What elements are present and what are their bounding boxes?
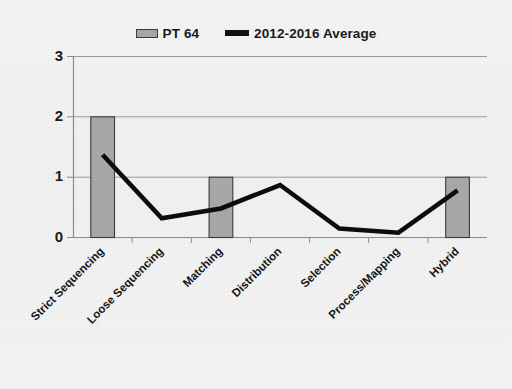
gridlines xyxy=(73,57,487,238)
x-label-hybrid: Hybrid xyxy=(427,245,461,279)
x-axis-ticks xyxy=(132,238,428,244)
x-label-matching: Matching xyxy=(180,245,224,289)
y-axis-ticks xyxy=(67,57,73,238)
y-axis-labels: 3 2 1 0 xyxy=(55,47,63,245)
y-tick-label-2: 2 xyxy=(55,107,63,124)
line-series-2012-2016-average xyxy=(103,155,458,233)
y-tick-label-1: 1 xyxy=(55,167,63,184)
chart-plot-area: 3 2 1 0 Strict Sequencing Loose Sequenci… xyxy=(0,0,512,389)
chart-container: PT 64 2012-2016 Average 3 2 1 0 xyxy=(0,0,512,389)
x-label-distribution: Distribution xyxy=(230,245,284,299)
bar-hybrid xyxy=(446,177,470,237)
x-axis-category-labels: Strict Sequencing Loose Sequencing Match… xyxy=(29,245,462,326)
x-label-selection: Selection xyxy=(298,245,343,290)
y-tick-label-3: 3 xyxy=(55,47,63,64)
bar-strict-sequencing xyxy=(91,117,115,238)
y-tick-label-0: 0 xyxy=(55,228,63,245)
